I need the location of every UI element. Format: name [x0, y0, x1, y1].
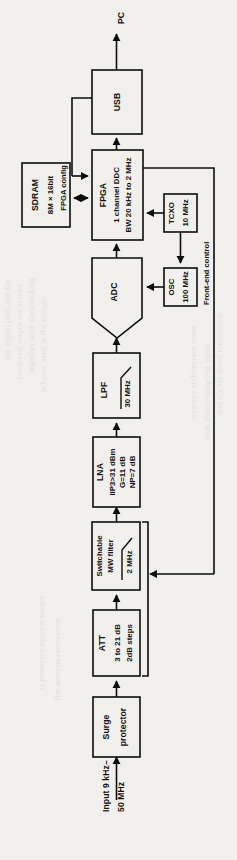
- block-fpga: FPGA 1 channel DDC BW 20 kHz to 2 MHz: [92, 150, 143, 240]
- mwfilter-line2: MW filter: [106, 539, 115, 572]
- fpga-config-label: FPGA config: [59, 165, 68, 211]
- surge-line1: Surge: [101, 714, 111, 739]
- input-label-line1: Input 9 kHz–: [101, 760, 111, 812]
- front-end-control-label: Front-end control: [202, 242, 211, 305]
- block-mw-filter: Switchable MW filter 2 MHz: [92, 522, 140, 590]
- surge-line2: protector: [118, 707, 128, 746]
- att-line3: 2dB steps: [125, 624, 134, 662]
- osc-label: OSC: [167, 278, 176, 295]
- tcxo-line2: 10 MHz: [181, 199, 190, 226]
- svg-text:together with the clocking: together with the clocking: [26, 277, 36, 372]
- svg-text:receiver architecture notes: receiver architecture notes: [188, 325, 198, 420]
- adc-label: ADC: [109, 283, 119, 302]
- mwfilter-line3: 2 MHz: [125, 551, 134, 574]
- svg-text:and digital down conversion: and digital down conversion: [214, 312, 224, 415]
- att-label: ATT: [97, 634, 107, 651]
- lpf-label: LPF: [99, 382, 109, 399]
- att-line2: 3 to 21 dB: [113, 624, 122, 662]
- block-tcxo: TCXO 10 MHz: [164, 194, 197, 232]
- block-usb: USB: [92, 70, 142, 134]
- svg-text:the antenna connection: the antenna connection: [52, 617, 62, 700]
- svg-text:scheme used in the design: scheme used in the design: [38, 298, 48, 392]
- lna-line3: G=11 dB: [118, 456, 127, 488]
- diagram-canvas: the signal path and the front-end stages…: [0, 0, 237, 860]
- svg-text:front-end stages are shown: front-end stages are shown: [14, 283, 24, 380]
- fpga-line3: BW 20 kHz to 2 MHz: [124, 157, 133, 232]
- osc-line2: 100 MHz: [181, 271, 190, 303]
- lna-line4: NP=7 dB: [128, 455, 137, 488]
- lpf-line2: 30 MHz: [123, 380, 132, 407]
- block-surge-protector: Surge protector: [93, 697, 140, 757]
- lna-line2: IIP3>31 dBm: [108, 448, 117, 495]
- sdram-line2: 8M × 16bit: [46, 175, 55, 214]
- lna-label: LNA: [95, 463, 105, 481]
- svg-text:is protected against surges: is protected against surges: [36, 595, 46, 690]
- svg-text:the signal path and the: the signal path and the: [2, 279, 12, 360]
- usb-label: USB: [112, 93, 122, 111]
- sdram-label: SDRAM: [30, 179, 40, 211]
- block-att: ATT 3 to 21 dB 2dB steps: [93, 610, 140, 676]
- input-label-line2: 50 MHz: [116, 782, 126, 812]
- block-diagram-figure: the signal path and the front-end stages…: [0, 0, 237, 860]
- pc-label: PC: [116, 12, 126, 24]
- block-lpf: LPF 30 MHz: [93, 353, 140, 418]
- fpga-label: FPGA: [98, 183, 108, 207]
- mwfilter-line1: Switchable: [95, 535, 104, 577]
- svg-text:with direct sampling input: with direct sampling input: [202, 345, 212, 440]
- block-lna: LNA IIP3>31 dBm G=11 dB NP=7 dB: [93, 437, 140, 507]
- fpga-line2: 1 channel DDC: [112, 167, 121, 223]
- tcxo-label: TCXO: [167, 202, 176, 224]
- block-osc: OSC 100 MHz: [164, 268, 197, 306]
